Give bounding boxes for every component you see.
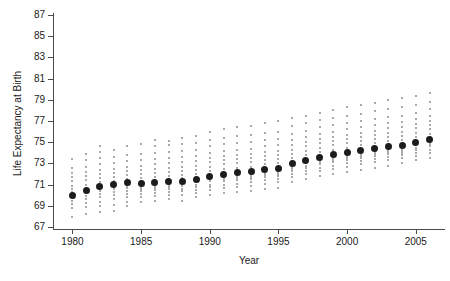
observation-dot [360, 140, 362, 142]
observation-dot [195, 186, 197, 188]
observation-dot [195, 173, 197, 175]
observation-dot [126, 154, 128, 156]
observation-dot [126, 190, 128, 192]
observation-dot [332, 165, 334, 167]
observation-dot [360, 155, 362, 157]
x-tick [72, 229, 73, 234]
mean-dot [426, 136, 433, 143]
observation-dot [195, 165, 197, 167]
observation-dot [319, 112, 321, 114]
y-tick [48, 185, 53, 186]
observation-dot [236, 179, 238, 181]
observation-dot [387, 122, 389, 124]
observation-dot [71, 180, 73, 182]
observation-dot [319, 138, 321, 140]
observation-dot [360, 120, 362, 122]
observation-dot [140, 153, 142, 155]
observation-dot [209, 161, 211, 163]
observation-dot [113, 198, 115, 200]
observation-dot [181, 166, 183, 168]
observation-dot [195, 189, 197, 191]
observation-dot [154, 152, 156, 154]
observation-dot [71, 188, 73, 190]
observation-dot [429, 145, 431, 147]
mean-dot [316, 154, 323, 161]
observation-dot [401, 139, 403, 141]
observation-dot [291, 176, 293, 178]
observation-dot [209, 131, 211, 133]
observation-dot [415, 104, 417, 106]
observation-dot [181, 194, 183, 196]
observation-dot [209, 170, 211, 172]
observation-dot [374, 158, 376, 160]
observation-dot [154, 187, 156, 189]
observation-dot [140, 169, 142, 171]
observation-dot [181, 137, 183, 139]
observation-dot [374, 155, 376, 157]
observation-dot [140, 143, 142, 145]
observation-dot [429, 120, 431, 122]
observation-dot [71, 167, 73, 169]
observation-dot [85, 159, 87, 161]
observation-dot [374, 138, 376, 140]
observation-dot [305, 178, 307, 180]
observation-dot [305, 170, 307, 172]
observation-dot [113, 156, 115, 158]
x-tick [416, 229, 417, 234]
mean-dot [302, 157, 309, 164]
observation-dot [209, 194, 211, 196]
observation-dot [71, 185, 73, 187]
observation-dot [181, 200, 183, 202]
mean-dot [69, 192, 76, 199]
observation-dot [387, 116, 389, 118]
observation-dot [387, 140, 389, 142]
observation-dot [374, 130, 376, 132]
observation-dot [415, 118, 417, 120]
observation-dot [277, 173, 279, 175]
observation-dot [209, 157, 211, 159]
observation-dot [387, 127, 389, 129]
observation-dot [209, 145, 211, 147]
observation-dot [401, 162, 403, 164]
observation-dot [264, 139, 266, 141]
y-tick-label: 79 [1, 95, 45, 105]
observation-dot [195, 160, 197, 162]
observation-dot [154, 200, 156, 202]
observation-dot [319, 119, 321, 121]
observation-dot [332, 168, 334, 170]
observation-dot [223, 155, 225, 157]
observation-dot [195, 196, 197, 198]
observation-dot [181, 156, 183, 158]
observation-dot [291, 149, 293, 151]
observation-dot [374, 167, 376, 169]
observation-dot [264, 122, 266, 124]
observation-dot [277, 138, 279, 140]
observation-dot [415, 127, 417, 129]
observation-dot [277, 162, 279, 164]
observation-dot [332, 117, 334, 119]
observation-dot [209, 184, 211, 186]
observation-dot [264, 179, 266, 181]
observation-dot [71, 203, 73, 205]
mean-dot [96, 183, 103, 190]
observation-dot [277, 131, 279, 133]
observation-dot [319, 167, 321, 169]
observation-dot [387, 99, 389, 101]
observation-dot [223, 168, 225, 170]
observation-dot [401, 154, 403, 156]
observation-dot [415, 132, 417, 134]
observation-dot [181, 150, 183, 152]
y-tick-label: 81 [1, 74, 45, 84]
observation-dot [332, 131, 334, 133]
observation-dot [264, 145, 266, 147]
observation-dot [126, 174, 128, 176]
observation-dot [277, 158, 279, 160]
observation-dot [277, 120, 279, 122]
observation-dot [223, 184, 225, 186]
observation-dot [332, 149, 334, 151]
observation-dot [154, 189, 156, 191]
observation-dot [305, 130, 307, 132]
mean-dot [248, 168, 255, 175]
y-tick-label: 71 [1, 180, 45, 190]
observation-dot [99, 163, 101, 165]
